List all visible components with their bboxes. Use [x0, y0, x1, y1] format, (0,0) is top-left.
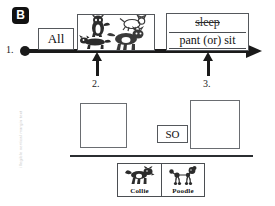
answer-box-2[interactable]: [80, 103, 127, 148]
replacement-verb-text: pant (or) sit: [167, 33, 248, 48]
collie-dog-icon: [125, 166, 155, 186]
answer-box-3[interactable]: [190, 100, 240, 149]
step-2-label: 2.: [92, 78, 100, 89]
connector-so-box[interactable]: SO: [157, 125, 188, 143]
subject-quantifier-box[interactable]: All: [38, 28, 74, 50]
card-label-poodle: Poodle: [172, 187, 193, 195]
worksheet-page: B illegible vertical margin text 1. All: [0, 0, 275, 206]
four-dogs-illustration-icon: [78, 15, 154, 50]
arrow-up-icon-3: [207, 60, 210, 76]
card-label-collie: Collie: [130, 187, 149, 195]
step-3-label: 3.: [203, 78, 211, 89]
predicate-box[interactable]: sleep pant (or) sit: [166, 13, 249, 51]
crossed-out-verb: sleep: [167, 15, 248, 30]
card-poodle[interactable]: Poodle: [161, 164, 204, 196]
section-divider: [70, 155, 253, 157]
section-badge-b: B: [12, 7, 29, 24]
arrow-up-icon-2: [96, 60, 99, 76]
filled-dot-icon: [20, 46, 30, 56]
step-1-label: 1.: [6, 44, 14, 55]
predicate-underline: [169, 48, 246, 49]
card-tray: Collie: [117, 163, 205, 197]
dogs-illustration-box: [77, 14, 155, 51]
margin-watermark: illegible vertical margin text: [18, 88, 23, 168]
card-collie[interactable]: Collie: [118, 164, 161, 196]
poodle-dog-icon: [168, 166, 198, 186]
